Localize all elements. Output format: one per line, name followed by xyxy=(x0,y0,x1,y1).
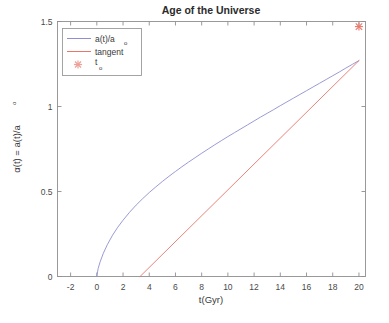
x-tick-labels: -202468101214161820 xyxy=(67,282,364,292)
y-tick-label: 1.5 xyxy=(41,17,53,27)
x-tick-label: 14 xyxy=(276,282,286,292)
series-tangent-line xyxy=(140,61,359,277)
x-tick-label: 8 xyxy=(199,282,204,292)
y-tick-label: 0 xyxy=(48,272,53,282)
chart-plot[interactable]: Age of the Universe -202468101214161820 … xyxy=(0,0,389,323)
x-axis-label: t(Gyr) xyxy=(199,294,223,305)
y-tick-labels: 00.511.5 xyxy=(41,17,53,282)
legend-label-scale-factor: a(t)/a xyxy=(95,34,115,44)
x-tick-label: 10 xyxy=(223,282,233,292)
series-scale-factor-curve xyxy=(97,61,359,277)
chart-title: Age of the Universe xyxy=(162,4,261,16)
y-axis-label-group: α(t) = a(t)/a o xyxy=(11,101,22,173)
x-tick-label: 18 xyxy=(328,282,338,292)
x-tick-label: -2 xyxy=(67,282,75,292)
y-axis-label: α(t) = a(t)/a xyxy=(11,125,22,173)
series-t0-marker xyxy=(355,23,363,31)
legend-swatch-asterisk-marker xyxy=(74,61,82,69)
legend-label-tangent: tangent xyxy=(95,47,124,57)
y-tick-label: 1 xyxy=(48,102,53,112)
x-tick-label: 16 xyxy=(302,282,312,292)
x-tick-label: 6 xyxy=(173,282,178,292)
x-tick-label: 12 xyxy=(249,282,259,292)
x-tick-label: 2 xyxy=(121,282,126,292)
x-tick-label: 4 xyxy=(147,282,152,292)
x-tick-label: 0 xyxy=(94,282,99,292)
x-tick-label: 20 xyxy=(354,282,364,292)
y-tick-label: 0.5 xyxy=(41,187,53,197)
figure-canvas: Age of the Universe -202468101214161820 … xyxy=(0,0,389,323)
y-axis-label-subscript: o xyxy=(11,101,17,105)
legend[interactable]: a(t)/a o tangent t o xyxy=(63,29,142,76)
